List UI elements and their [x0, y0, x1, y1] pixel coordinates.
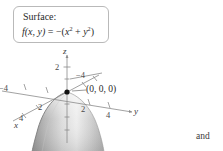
paraboloid-surface [32, 92, 104, 151]
trailing-body-text: and [196, 131, 210, 141]
equation-plus: + [72, 26, 83, 37]
equation-args: (x, y) [25, 26, 46, 37]
x-axis-label: x [14, 120, 18, 130]
origin-annotation: (0, 0, 0) [86, 84, 116, 94]
x-tick-2: 2 [38, 102, 42, 112]
callout-title: Surface: [23, 11, 56, 22]
y-tick-negative-4: −4 [0, 83, 8, 93]
surface-callout-box: Surface: f(x, y) = −(x2 + y2) [13, 6, 109, 43]
callout-equation: f(x, y) = −(x2 + y2) [22, 25, 94, 37]
equation-close: ) [91, 26, 94, 37]
figure-page: Surface: f(x, y) = −(x2 + y2) x y z 2 2 … [0, 0, 223, 151]
equation-eq: = −( [45, 26, 65, 37]
origin-leader-line [72, 90, 86, 91]
z-axis-label: z [63, 46, 67, 56]
x-tick-4: 4 [19, 113, 23, 123]
y-tick-2: 2 [81, 104, 85, 114]
origin-point [64, 89, 69, 94]
y-axis-label: y [134, 106, 138, 116]
y-tick-4: 4 [106, 110, 110, 120]
x-tick-negative-4: −4 [76, 70, 85, 80]
z-tick-2: 2 [55, 62, 59, 72]
